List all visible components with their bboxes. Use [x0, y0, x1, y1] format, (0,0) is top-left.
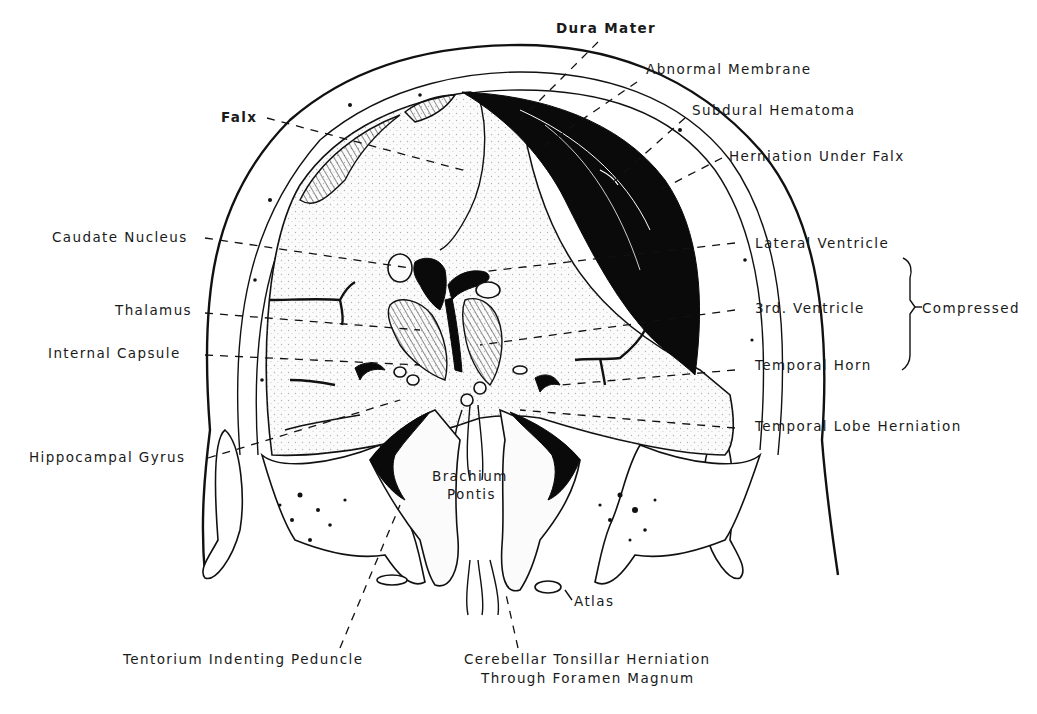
- label-thalamus: Thalamus: [114, 302, 192, 318]
- label-brachium-pontis-1: Brachium: [432, 468, 508, 484]
- label-abnormal-membrane: Abnormal Membrane: [646, 61, 812, 77]
- label-hippocampal-gyrus: Hippocampal Gyrus: [29, 449, 185, 465]
- label-lateral-ventricle: Lateral Ventricle: [755, 235, 889, 251]
- label-atlas: Atlas: [574, 593, 614, 609]
- label-tentorium-indenting-peduncle: Tentorium Indenting Peduncle: [122, 651, 363, 667]
- label-third-ventricle: 3rd. Ventricle: [755, 300, 865, 316]
- atlas-right: [535, 581, 561, 593]
- coronal-brain-diagram: Dura Mater Abnormal Membrane Subdural He…: [0, 0, 1037, 714]
- label-temporal-lobe-herniation: Temporal Lobe Herniation: [754, 418, 962, 434]
- label-caudate-nucleus: Caudate Nucleus: [52, 229, 188, 245]
- label-falx: Falx: [221, 109, 257, 125]
- label-compressed: Compressed: [922, 300, 1020, 316]
- label-dura-mater: Dura Mater: [556, 20, 656, 36]
- label-cerebellar-herniation-1: Cerebellar Tonsillar Herniation: [464, 651, 711, 667]
- label-internal-capsule: Internal Capsule: [48, 345, 181, 361]
- label-temporal-horn: Temporal Horn: [754, 357, 872, 373]
- label-herniation-under-falx: Herniation Under Falx: [729, 148, 905, 164]
- atlas-left: [377, 575, 407, 585]
- left-temporal-bone: [203, 430, 242, 578]
- label-brachium-pontis-2: Pontis: [447, 486, 496, 502]
- label-cerebellar-herniation-2: Through Foramen Magnum: [480, 670, 695, 686]
- label-subdural-hematoma: Subdural Hematoma: [692, 102, 855, 118]
